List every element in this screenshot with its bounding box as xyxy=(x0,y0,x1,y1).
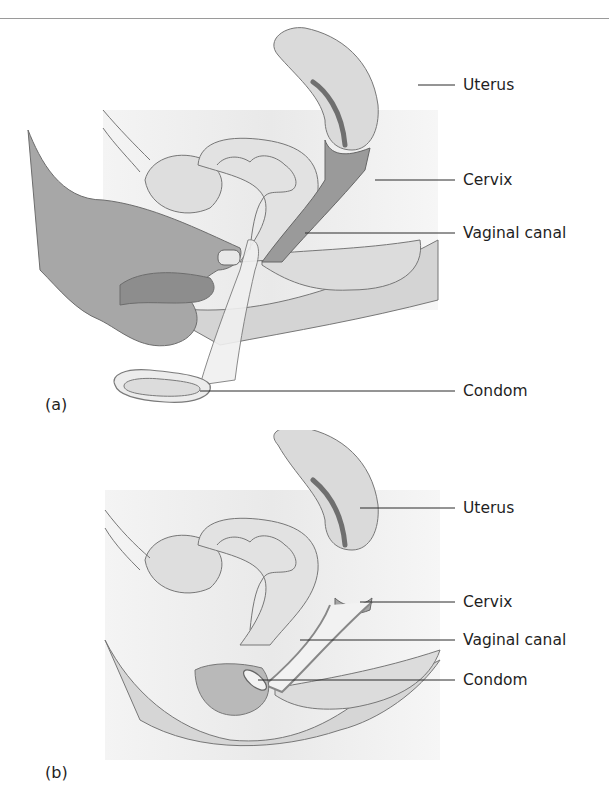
label-condom: Condom xyxy=(463,671,528,689)
panel-b: Uterus Cervix Vaginal canal Condom (b) xyxy=(0,430,609,796)
female-condom-in-place-illustration xyxy=(0,430,609,796)
female-condom-insertion-illustration xyxy=(0,0,609,430)
label-vaginal-canal: Vaginal canal xyxy=(463,631,566,649)
panel-tag-a: (a) xyxy=(45,396,67,414)
label-cervix: Cervix xyxy=(463,593,512,611)
panel-tag-b: (b) xyxy=(45,764,68,782)
panel-a: Uterus Cervix Vaginal canal Condom (a) xyxy=(0,0,609,430)
label-cervix: Cervix xyxy=(463,171,512,189)
label-uterus: Uterus xyxy=(463,76,514,94)
label-vaginal-canal: Vaginal canal xyxy=(463,224,566,242)
label-condom: Condom xyxy=(463,382,528,400)
label-uterus: Uterus xyxy=(463,499,514,517)
